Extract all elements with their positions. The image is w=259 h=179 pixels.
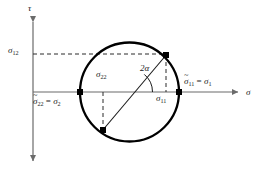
two-alpha-label: 2α: [140, 64, 149, 73]
principal-max-point: [176, 89, 182, 95]
sigma22-label: σ22: [96, 70, 107, 79]
two-alpha-arc: [144, 74, 152, 92]
sigma-axis-label: σ: [246, 88, 250, 97]
mohr-circle-canvas: [0, 0, 259, 179]
tilde-accent-icon: ~: [33, 92, 37, 100]
principal-min-point: [77, 89, 83, 95]
tau-axis-label: τ: [28, 4, 31, 13]
principal-max-label: ~σ11 = σ1: [184, 77, 211, 86]
sigma12-label: σ12: [8, 46, 19, 55]
tilde-accent-icon: ~: [184, 72, 188, 80]
stress-state-point-lower: [100, 127, 106, 133]
mohr-circle-figure: τ σ σ12 σ22 σ11 2α ~σ22 = σ2 ~σ11 = σ1: [0, 0, 259, 179]
stress-state-point-upper: [163, 52, 169, 58]
principal-min-label: ~σ22 = σ2: [33, 97, 61, 106]
sigma11-label: σ11: [156, 94, 166, 103]
